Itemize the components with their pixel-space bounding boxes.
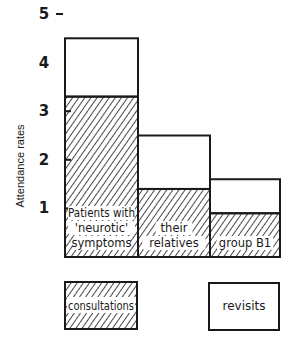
legend-item-consultations: consultations — [65, 282, 137, 329]
bar-3: group B1 — [210, 179, 280, 257]
bar-category-label: their — [161, 221, 188, 235]
bar-category-label: group B1 — [219, 236, 271, 250]
bar-2: theirrelatives — [138, 136, 210, 258]
legend: consultations revisits — [65, 282, 279, 330]
bar-category-label: symptoms — [71, 236, 131, 250]
bars: Patients with'neurotic'symptomstheirrela… — [65, 38, 280, 257]
y-tick-label: 1 — [39, 199, 49, 217]
bar-1: Patients with'neurotic'symptoms — [65, 38, 138, 257]
bar-category-label: relatives — [149, 236, 198, 250]
y-tick-label: 2 — [39, 151, 49, 169]
legend-label-revisits: revisits — [222, 299, 265, 313]
bar-segment-revisits — [138, 136, 210, 189]
y-tick-label: 4 — [39, 54, 49, 72]
bar-category-label: Patients with — [68, 206, 135, 220]
y-tick-label: 5 — [39, 5, 49, 23]
bar-segment-revisits — [210, 179, 280, 213]
legend-item-revisits: revisits — [209, 283, 279, 330]
y-axis-title: Attendance rates — [14, 124, 26, 208]
bar-segment-revisits — [65, 38, 138, 96]
attendance-rates-chart: Attendance rates 12345 Patients with'neu… — [0, 0, 298, 348]
bar-category-label: 'neurotic' — [75, 221, 129, 235]
legend-label-consultations: consultations — [68, 299, 134, 313]
y-tick-label: 3 — [39, 102, 49, 120]
